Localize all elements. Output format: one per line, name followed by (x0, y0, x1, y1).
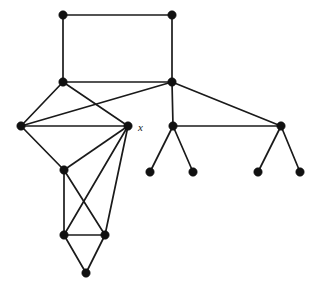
vertex-layer (17, 11, 304, 277)
graph-edge (258, 126, 281, 172)
graph-edge (64, 235, 86, 273)
graph-vertex (82, 269, 90, 277)
graph-edge (281, 126, 300, 172)
graph-vertex-x (124, 122, 132, 130)
graph-edge (150, 126, 173, 172)
vertex-label-x: x (137, 121, 143, 133)
graph-edge (172, 82, 281, 126)
graph-vertex (60, 231, 68, 239)
graph-vertex (189, 168, 197, 176)
graph-figure: x (0, 0, 317, 293)
graph-edge (173, 126, 193, 172)
graph-vertex (296, 168, 304, 176)
graph-edge (21, 82, 172, 126)
graph-vertex (101, 231, 109, 239)
graph-vertex (17, 122, 25, 130)
graph-vertex (146, 168, 154, 176)
graph-edge (105, 126, 128, 235)
graph-vertex (254, 168, 262, 176)
graph-edge (64, 126, 128, 170)
graph-vertex (60, 166, 68, 174)
graph-vertex (168, 78, 176, 86)
graph-canvas: x (0, 0, 317, 293)
graph-vertex (277, 122, 285, 130)
graph-vertex (59, 78, 67, 86)
graph-edge (21, 126, 64, 170)
graph-vertex (169, 122, 177, 130)
graph-edge (172, 82, 173, 126)
graph-vertex (59, 11, 67, 19)
label-layer: x (137, 121, 143, 133)
graph-edge (64, 126, 128, 235)
graph-vertex (168, 11, 176, 19)
graph-edge (86, 235, 105, 273)
